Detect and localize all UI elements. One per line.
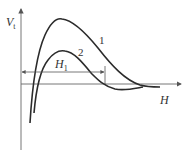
curve-1-label: 1 — [99, 34, 105, 46]
curve-2 — [34, 51, 143, 113]
interval-label: H1 — [54, 57, 68, 73]
curve-1 — [30, 19, 160, 123]
y-axis-label: Vt — [6, 15, 16, 31]
diagram-canvas: Vt H H1 1 2 — [0, 0, 183, 154]
x-axis-label: H — [159, 93, 170, 107]
curve-2-label: 2 — [78, 46, 84, 58]
